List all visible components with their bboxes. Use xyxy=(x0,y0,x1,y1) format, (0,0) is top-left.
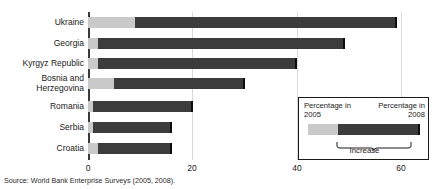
stacked-bar xyxy=(88,101,193,112)
bar-segment-2005 xyxy=(88,143,98,154)
category-label-serbia: Serbia xyxy=(0,117,84,138)
legend-swatch-2008 xyxy=(338,124,420,135)
stacked-bar xyxy=(88,122,172,133)
bar-row-serbia xyxy=(88,117,172,138)
legend-label-2005: Percentage in 2005 xyxy=(304,101,360,119)
legend-label-2008: Percentage in 2008 xyxy=(369,101,425,119)
category-label-romania: Romania xyxy=(0,96,84,117)
legend: Percentage in 2005 Percentage in 2008 In… xyxy=(298,97,429,160)
bar-segment-2008 xyxy=(93,101,193,112)
category-label-text: Romania xyxy=(50,102,84,112)
category-label-text: Croatia xyxy=(57,144,84,154)
category-label-text: Ukraine xyxy=(55,18,84,28)
stacked-bar xyxy=(88,17,397,28)
legend-increase-label: Increase xyxy=(299,146,430,156)
x-tick-0: 0 xyxy=(86,163,91,173)
legend-sample-bar xyxy=(308,124,420,135)
legend-swatch-2005 xyxy=(308,124,338,135)
category-label-text: Kyrgyz Republic xyxy=(23,59,84,69)
category-label-text: Georgia xyxy=(54,39,84,49)
bar-segment-2008 xyxy=(114,78,245,89)
category-label-group: Ukraine Georgia Kyrgyz Republic Bosnia a… xyxy=(0,12,84,160)
bar-segment-2005 xyxy=(88,17,135,28)
category-label-text: Serbia xyxy=(59,123,84,133)
bar-row-ukraine xyxy=(88,12,397,33)
bar-segment-2005 xyxy=(88,38,98,49)
bar-segment-2008 xyxy=(135,17,397,28)
category-label-georgia: Georgia xyxy=(0,33,84,54)
x-tick-40: 40 xyxy=(292,163,301,173)
legend-headings: Percentage in 2005 Percentage in 2008 xyxy=(299,101,430,119)
x-tick-20: 20 xyxy=(187,163,196,173)
bar-segment-2008 xyxy=(98,58,297,69)
bar-segment-2005 xyxy=(88,58,98,69)
bar-row-georgia xyxy=(88,33,345,54)
increase-brace-icon xyxy=(336,137,412,146)
x-tick-60: 60 xyxy=(396,163,405,173)
category-label-kyrgyz-republic: Kyrgyz Republic xyxy=(0,53,84,74)
bar-segment-2008 xyxy=(93,122,172,133)
bar-row-croatia xyxy=(88,138,172,159)
category-label-bosnia-and-herzegovina: Bosnia and Herzegovina xyxy=(0,73,84,94)
source-note: Source: World Bank Enterprise Surveys (2… xyxy=(4,176,175,185)
category-label-croatia: Croatia xyxy=(0,138,84,159)
stacked-bar xyxy=(88,143,172,154)
bar-row-romania xyxy=(88,96,193,117)
bar-segment-2005 xyxy=(88,78,114,89)
stacked-bar xyxy=(88,58,297,69)
bar-segment-2008 xyxy=(98,143,172,154)
bar-chart: Ukraine Georgia Kyrgyz Republic Bosnia a… xyxy=(0,0,435,189)
category-label-text: Bosnia and Herzegovina xyxy=(36,74,84,93)
stacked-bar xyxy=(88,78,245,89)
stacked-bar xyxy=(88,38,345,49)
bar-segment-2008 xyxy=(98,38,345,49)
bar-row-bosnia-and-herzegovina xyxy=(88,73,245,94)
category-label-ukraine: Ukraine xyxy=(0,12,84,33)
bar-row-kyrgyz-republic xyxy=(88,53,297,74)
